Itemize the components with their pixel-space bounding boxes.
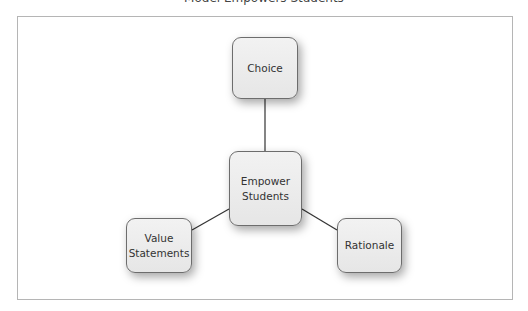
value-label-line1: Value — [129, 231, 190, 245]
node-choice-label: Choice — [247, 61, 283, 75]
node-choice: Choice — [232, 37, 298, 99]
node-rationale: Rationale — [337, 218, 402, 273]
center-label-line1: Empower — [241, 174, 290, 188]
node-empower-students: Empower Students — [229, 151, 302, 226]
center-label-line2: Students — [241, 189, 290, 203]
node-value-statements: Value Statements — [126, 218, 192, 273]
connector-value-statements — [192, 209, 229, 230]
value-label-line2: Statements — [129, 246, 190, 260]
connector-rationale — [302, 209, 337, 230]
node-rationale-label: Rationale — [345, 238, 394, 252]
